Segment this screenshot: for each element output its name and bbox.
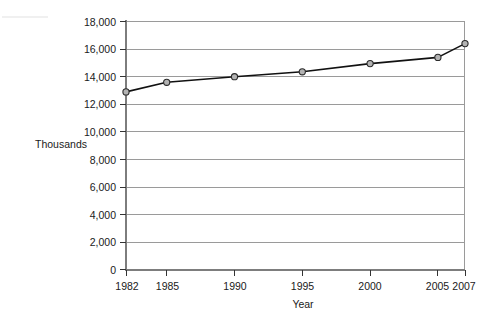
x-axis-tick-labels: 1982 1985 1990 1995 2000 2005 2007 xyxy=(115,280,476,292)
y-axis-title: Thousands xyxy=(35,138,87,150)
x-tick-label: 1985 xyxy=(156,280,180,292)
y-tick-label: 14,000 xyxy=(84,71,116,83)
x-tick-label: 1995 xyxy=(291,280,315,292)
x-axis-title: Year xyxy=(292,298,314,310)
x-tick-label: 2005 xyxy=(426,280,450,292)
y-tick-label: 18,000 xyxy=(84,16,116,28)
x-tick-label: 1990 xyxy=(223,280,247,292)
data-point-1985 xyxy=(164,79,170,85)
gridlines xyxy=(126,22,465,270)
y-tick-label: 16,000 xyxy=(84,43,116,55)
chart-canvas: 18,000 16,000 14,000 12,000 10,000 8,000… xyxy=(0,0,485,315)
y-tick-label: 2,000 xyxy=(90,236,116,248)
data-point-1982 xyxy=(123,89,129,95)
scan-artifact xyxy=(2,16,48,18)
y-axis-tick-labels: 18,000 16,000 14,000 12,000 10,000 8,000… xyxy=(84,16,116,276)
x-axis-tick-marks xyxy=(126,270,465,276)
x-tick-label: 2000 xyxy=(358,280,382,292)
data-point-2007 xyxy=(462,41,468,47)
data-point-1995 xyxy=(299,69,305,75)
data-point-1990 xyxy=(231,74,237,80)
y-tick-label: 10,000 xyxy=(84,126,116,138)
y-axis-tick-marks xyxy=(120,22,126,270)
y-tick-label: 6,000 xyxy=(90,181,116,193)
y-tick-label: 8,000 xyxy=(90,154,116,166)
x-tick-label: 2007 xyxy=(452,280,476,292)
line-chart: 18,000 16,000 14,000 12,000 10,000 8,000… xyxy=(0,0,485,315)
data-point-2000 xyxy=(367,61,373,67)
series-line-thousands xyxy=(126,44,465,92)
y-tick-label: 0 xyxy=(110,264,116,276)
y-tick-label: 4,000 xyxy=(90,209,116,221)
data-point-2005 xyxy=(435,54,441,60)
x-tick-label: 1982 xyxy=(115,280,139,292)
y-tick-label: 12,000 xyxy=(84,98,116,110)
